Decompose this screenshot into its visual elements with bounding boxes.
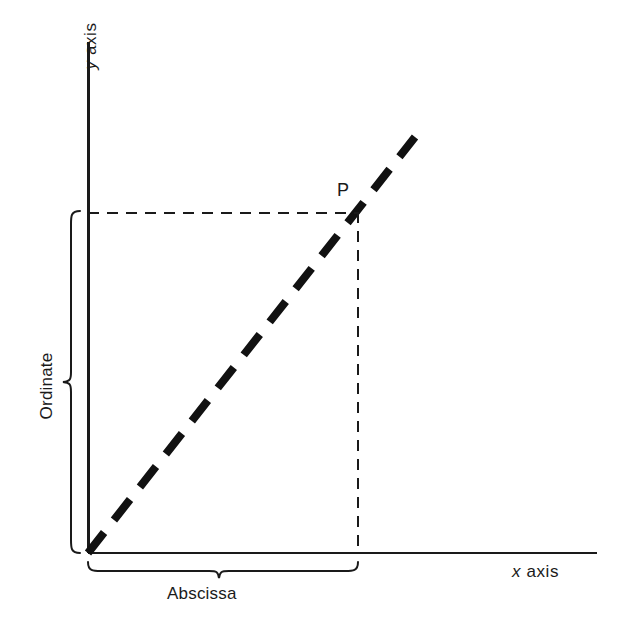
- abscissa-brace: [88, 562, 358, 578]
- abscissa-label: Abscissa: [167, 584, 237, 604]
- axes-group: [88, 42, 597, 553]
- x-axis-label-variable: x: [512, 562, 521, 581]
- diagram-canvas: [0, 0, 628, 622]
- ordinate-brace: [63, 211, 80, 553]
- ordinate-label: Ordinate: [37, 331, 59, 441]
- plotted-line-dashed: [88, 137, 415, 553]
- y-axis-label-word: axis: [81, 22, 100, 60]
- y-axis-label-variable: y: [81, 60, 100, 69]
- coordinate-system-diagram: y axis x axis P Ordinate Abscissa: [0, 0, 628, 622]
- y-axis-label: y axis: [81, 1, 103, 91]
- x-axis-label: x axis: [512, 562, 559, 582]
- x-axis-label-word: axis: [521, 562, 559, 581]
- point-p-label: P: [337, 180, 349, 201]
